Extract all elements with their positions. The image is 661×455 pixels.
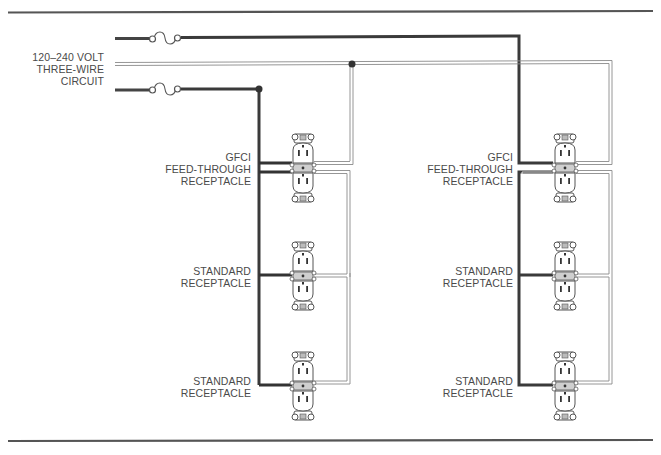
- hot-wire-2: [115, 83, 263, 385]
- label-line: STANDARD: [443, 375, 513, 387]
- neutral-wire: [115, 61, 612, 162]
- label-line: GFCI: [165, 151, 251, 163]
- label-line: RECEPTACLE: [181, 387, 251, 399]
- fuse-icon: [154, 83, 176, 95]
- left-neutral-taps: [314, 158, 353, 384]
- left-standard-receptacle-1: [290, 242, 316, 310]
- right-standard-receptacle-2: [552, 352, 578, 420]
- label-line: RECEPTACLE: [443, 277, 513, 289]
- left-standard-label-2: STANDARD RECEPTACLE: [181, 375, 251, 399]
- right-standard-label-1: STANDARD RECEPTACLE: [443, 265, 513, 289]
- right-gfci-receptacle: [552, 134, 578, 202]
- junction-dot: [256, 86, 263, 93]
- source-circuit-label: 120–240 VOLT THREE-WIRE CIRCUIT: [32, 51, 104, 87]
- label-line: THREE-WIRE: [32, 63, 104, 75]
- left-gfci-label: GFCI FEED-THROUGH RECEPTACLE: [165, 151, 251, 187]
- label-line: CIRCUIT: [32, 75, 104, 87]
- label-line: FEED-THROUGH: [165, 163, 251, 175]
- label-line: RECEPTACLE: [181, 277, 251, 289]
- left-standard-label-1: STANDARD RECEPTACLE: [181, 265, 251, 289]
- right-gfci-label: GFCI FEED-THROUGH RECEPTACLE: [427, 151, 513, 187]
- right-neutral-taps: [576, 158, 612, 384]
- fuse-icon: [154, 32, 176, 44]
- label-line: FEED-THROUGH: [427, 163, 513, 175]
- label-line: RECEPTACLE: [165, 175, 251, 187]
- bottom-rule: [8, 440, 653, 441]
- right-hot-taps: [519, 158, 553, 385]
- label-line: RECEPTACLE: [443, 387, 513, 399]
- label-line: RECEPTACLE: [427, 175, 513, 187]
- label-line: STANDARD: [181, 375, 251, 387]
- left-hot-taps: [259, 163, 292, 385]
- right-standard-receptacle-1: [552, 242, 578, 310]
- left-standard-receptacle-2: [290, 352, 316, 420]
- right-standard-label-2: STANDARD RECEPTACLE: [443, 375, 513, 399]
- top-rule: [8, 11, 653, 13]
- label-line: STANDARD: [181, 265, 251, 277]
- hot-wire-1: [115, 32, 519, 158]
- label-line: GFCI: [427, 151, 513, 163]
- label-line: 120–240 VOLT: [32, 51, 104, 63]
- left-gfci-receptacle: [290, 134, 316, 202]
- label-line: STANDARD: [443, 265, 513, 277]
- junction-dot: [349, 61, 356, 68]
